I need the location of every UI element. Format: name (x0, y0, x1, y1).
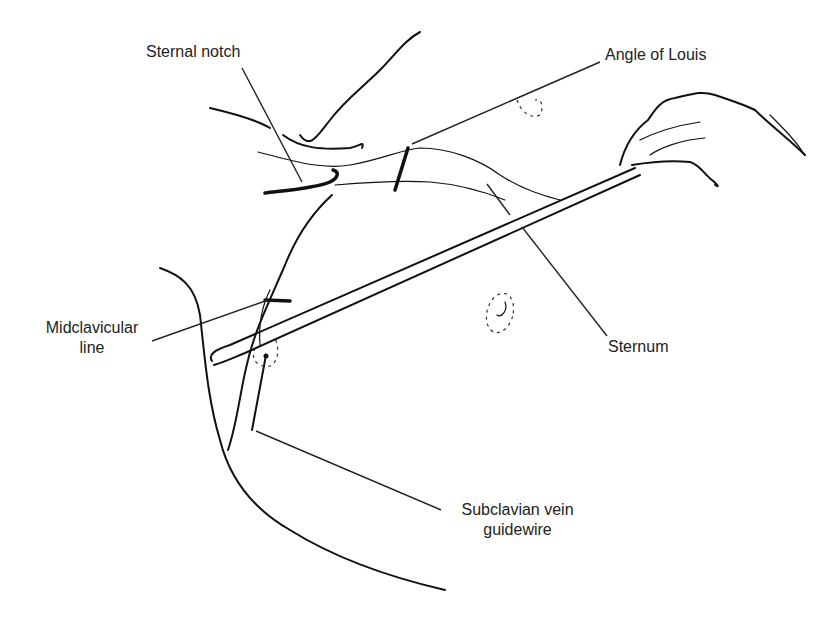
label-midclavicular-line-1: Midclavicular (32, 318, 152, 338)
label-midclavicular-line-2: line (32, 338, 152, 358)
arm-outline (160, 268, 445, 590)
label-guidewire-line-1: Subclavian vein (445, 500, 590, 520)
label-angle-of-louis: Angle of Louis (605, 45, 706, 65)
sternal-notch-leader (242, 68, 302, 182)
chest-contour-dotted (258, 148, 560, 200)
guidewire-leader (256, 431, 441, 510)
label-sternum: Sternum (608, 337, 668, 357)
illustration-canvas: Sternal notch Angle of Louis Midclavicul… (0, 0, 835, 620)
faint-mark (517, 100, 542, 117)
hand-knuckles (640, 122, 705, 155)
label-guidewire-line-2: guidewire (445, 520, 590, 540)
chest-drawing (0, 0, 835, 620)
neck-outline (300, 32, 420, 141)
midclavicular-mark (265, 300, 290, 301)
rod-upper-edge (211, 168, 635, 361)
angle-of-louis-leader (412, 62, 600, 144)
sternum-tick (487, 184, 510, 215)
nipple-center (497, 302, 506, 316)
label-sternal-notch: Sternal notch (146, 42, 240, 62)
clavicle-upper (283, 135, 363, 149)
label-subclavian-vein-guidewire: Subclavian vein guidewire (445, 500, 590, 540)
midclavicular-leader (152, 300, 268, 341)
guidewire-tip (264, 354, 269, 359)
deltoid-curve (260, 290, 270, 345)
chest-contour-lower (335, 181, 505, 200)
angle-of-louis-mark (395, 148, 408, 190)
nipple-outline (482, 290, 517, 335)
sternum-leader (522, 227, 607, 336)
hand-outline (620, 93, 805, 165)
label-midclavicular-line: Midclavicular line (32, 318, 152, 358)
rod-lower-edge (214, 175, 640, 365)
shoulder-line (210, 108, 270, 128)
hand-fingers (632, 161, 718, 186)
